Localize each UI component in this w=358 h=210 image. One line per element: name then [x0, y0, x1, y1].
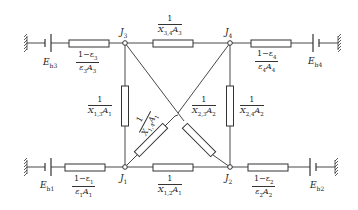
label-eb3: Eb3: [43, 58, 57, 69]
battery-eb2-icon: [310, 158, 316, 176]
label-eb1: Eb1: [40, 181, 54, 192]
label-r23: 1 X2,3A2: [192, 96, 216, 117]
label-eb2: Eb2: [310, 181, 324, 192]
node-j1: [123, 165, 128, 170]
ground-eb3-icon: [24, 34, 27, 52]
battery-eb4-icon: [313, 34, 319, 52]
resistor-r13: [122, 86, 129, 126]
node-j3: [123, 41, 128, 46]
resistor-r2: [248, 164, 288, 171]
resistor-r34: [153, 40, 193, 47]
label-r1: 1−ε1 ε1A1: [72, 175, 95, 198]
label-j4: J4: [225, 28, 232, 39]
ground-eb1-icon: [24, 158, 27, 176]
resistor-r3: [69, 40, 109, 47]
resistor-r1: [65, 164, 105, 171]
battery-eb3-icon: [45, 34, 51, 52]
resistor-r24: [227, 86, 234, 126]
label-r4: 1−ε4 ε4A4: [255, 50, 278, 73]
resistor-r23: [182, 123, 215, 156]
label-r24: 1 X2,4A2: [240, 96, 264, 117]
node-j4: [228, 41, 233, 46]
ground-eb4-icon: [338, 34, 341, 52]
label-r13: 1 X1,3A1: [88, 96, 112, 117]
label-j1: J1: [120, 174, 127, 185]
resistor-r4: [251, 40, 291, 47]
battery-eb1-icon: [45, 158, 51, 176]
resistor-r12: [153, 164, 193, 171]
label-j3: J3: [120, 28, 127, 39]
ground-eb2-icon: [335, 158, 338, 176]
label-r12: 1 X1,2A1: [158, 175, 182, 196]
label-r3: 1−ε3 ε3A3: [76, 51, 99, 74]
label-eb4: Eb4: [308, 57, 322, 68]
label-r34: 1 X3,4A3: [158, 15, 182, 36]
node-j2: [228, 165, 233, 170]
label-j2: J2: [225, 174, 232, 185]
label-r2: 1−ε2 ε2A2: [252, 175, 275, 198]
